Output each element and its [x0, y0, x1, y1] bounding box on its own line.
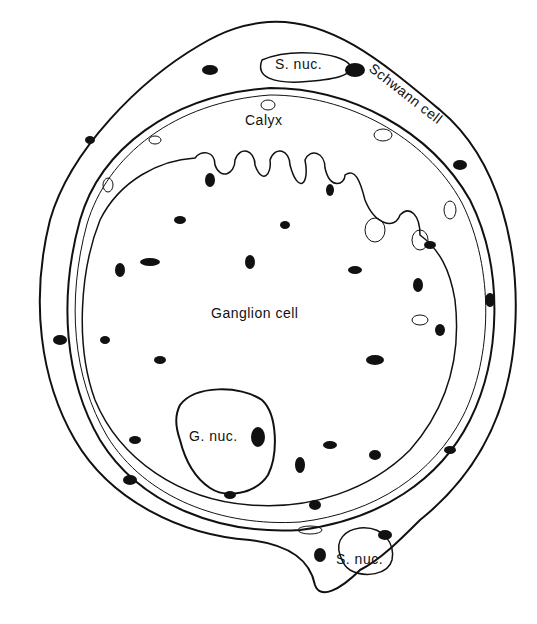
label-ganglion-cell: Ganglion cell: [211, 305, 298, 321]
label-schwann-nucleus-bottom: S. nuc.: [336, 551, 383, 567]
label-ganglion-nucleus: G. nuc.: [189, 428, 238, 444]
label-schwann-nucleus-top: S. nuc.: [275, 56, 322, 72]
label-calyx: Calyx: [245, 112, 283, 128]
nucleolus: [251, 427, 265, 447]
